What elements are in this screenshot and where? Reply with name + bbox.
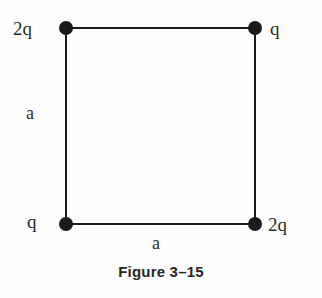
- square-edge-top: [66, 27, 255, 29]
- side-length-label-left: a: [26, 104, 34, 122]
- charge-node-bottom-left: [59, 217, 73, 231]
- charge-node-top-left: [59, 21, 73, 35]
- square-edge-bottom: [66, 223, 255, 225]
- figure-caption: Figure 3–15: [0, 263, 322, 280]
- charge-label-bottom-left: q: [27, 212, 37, 231]
- square-charge-diagram: 2q q q 2q a a: [0, 0, 322, 298]
- charge-node-bottom-right: [248, 217, 262, 231]
- square-edge-left: [65, 28, 67, 224]
- figure-panel: 2q q q 2q a a Figure 3–15: [0, 0, 322, 298]
- charge-label-top-left: 2q: [13, 19, 32, 38]
- charge-label-bottom-right: 2q: [268, 215, 287, 234]
- square-edge-right: [254, 28, 256, 224]
- side-length-label-bottom: a: [152, 234, 160, 252]
- charge-label-top-right: q: [270, 19, 280, 38]
- charge-node-top-right: [248, 21, 262, 35]
